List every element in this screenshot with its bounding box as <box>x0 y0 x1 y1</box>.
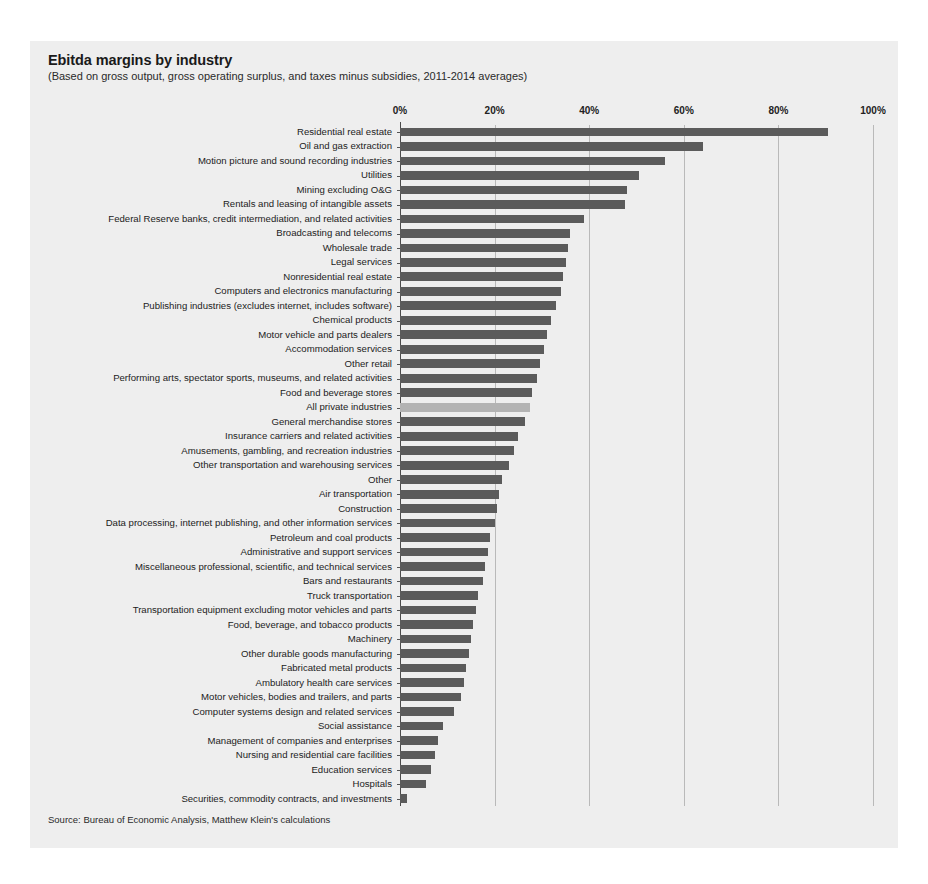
bar-row: Oil and gas extraction <box>30 139 873 153</box>
bar <box>400 200 625 209</box>
bar <box>400 548 488 557</box>
category-label: Insurance carriers and related activitie… <box>30 429 392 443</box>
bar <box>400 388 532 397</box>
bar-row: Other retail <box>30 357 873 371</box>
category-label: Transportation equipment excluding motor… <box>30 603 392 617</box>
bar <box>400 157 665 166</box>
category-label: Accommodation services <box>30 342 392 356</box>
bar-row: General merchandise stores <box>30 415 873 429</box>
bar <box>400 446 514 455</box>
bar-row: Administrative and support services <box>30 545 873 559</box>
category-label: Ambulatory health care services <box>30 676 392 690</box>
category-label: Administrative and support services <box>30 545 392 559</box>
bar <box>400 215 584 224</box>
bar <box>400 606 476 615</box>
bar-row: Social assistance <box>30 719 873 733</box>
bar <box>400 272 563 281</box>
bar-row: Hospitals <box>30 777 873 791</box>
category-label: Mining excluding O&G <box>30 183 392 197</box>
bar-row: Food, beverage, and tobacco products <box>30 618 873 632</box>
bar-row: Insurance carriers and related activitie… <box>30 429 873 443</box>
bar <box>400 562 485 571</box>
bar-row: Miscellaneous professional, scientific, … <box>30 560 873 574</box>
bar-row: Legal services <box>30 255 873 269</box>
bar <box>400 128 828 137</box>
category-label: Food and beverage stores <box>30 386 392 400</box>
bar <box>400 287 561 296</box>
bar-row: Other durable goods manufacturing <box>30 647 873 661</box>
bar <box>400 620 473 629</box>
bar <box>400 794 407 803</box>
bar <box>400 693 461 702</box>
bar <box>400 519 495 528</box>
category-label: Legal services <box>30 255 392 269</box>
x-tick-label: 0% <box>393 105 407 116</box>
bar <box>400 475 502 484</box>
bar-row: Food and beverage stores <box>30 386 873 400</box>
bar-row: Computers and electronics manufacturing <box>30 284 873 298</box>
bar-row: Machinery <box>30 632 873 646</box>
gridline-100% <box>873 125 874 806</box>
bar <box>400 490 499 499</box>
x-tick-label: 40% <box>579 105 599 116</box>
category-label: Social assistance <box>30 719 392 733</box>
category-label: Nursing and residential care facilities <box>30 748 392 762</box>
category-label: Motor vehicles, bodies and trailers, and… <box>30 690 392 704</box>
x-tick-label: 20% <box>485 105 505 116</box>
bar <box>400 707 454 716</box>
category-label: Federal Reserve banks, credit intermedia… <box>30 212 392 226</box>
bar <box>400 780 426 789</box>
category-label: Miscellaneous professional, scientific, … <box>30 560 392 574</box>
bar-row: Petroleum and coal products <box>30 531 873 545</box>
bar <box>400 330 547 339</box>
bar <box>400 533 490 542</box>
bar <box>400 403 530 412</box>
category-label: Bars and restaurants <box>30 574 392 588</box>
bar <box>400 736 438 745</box>
category-label: Hospitals <box>30 777 392 791</box>
bar <box>400 374 537 383</box>
bar <box>400 635 471 644</box>
category-label: Chemical products <box>30 313 392 327</box>
page-title: Ebitda margins by industry <box>48 52 232 68</box>
category-label: Rentals and leasing of intangible assets <box>30 197 392 211</box>
bar <box>400 417 525 426</box>
bar-row: Motor vehicle and parts dealers <box>30 328 873 342</box>
bar <box>400 316 551 325</box>
category-label: Utilities <box>30 168 392 182</box>
bar <box>400 171 639 180</box>
bar <box>400 301 556 310</box>
bar <box>400 229 570 238</box>
bar <box>400 664 466 673</box>
category-label: Other durable goods manufacturing <box>30 647 392 661</box>
bar <box>400 461 509 470</box>
bar-row: Other <box>30 473 873 487</box>
chart-page: Ebitda margins by industry (Based on gro… <box>0 0 928 884</box>
category-label: Other retail <box>30 357 392 371</box>
bar <box>400 142 703 151</box>
x-tick-label: 100% <box>860 105 886 116</box>
bar-row: Securities, commodity contracts, and inv… <box>30 792 873 806</box>
bar-row: Rentals and leasing of intangible assets <box>30 197 873 211</box>
bar-row: Broadcasting and telecoms <box>30 226 873 240</box>
category-label: Other <box>30 473 392 487</box>
bar-row: Utilities <box>30 168 873 182</box>
source-note: Source: Bureau of Economic Analysis, Mat… <box>48 814 330 825</box>
category-label: Computers and electronics manufacturing <box>30 284 392 298</box>
category-label: Amusements, gambling, and recreation ind… <box>30 444 392 458</box>
bar-row: Ambulatory health care services <box>30 676 873 690</box>
bar-row: Fabricated metal products <box>30 661 873 675</box>
bar <box>400 591 478 600</box>
category-label: Performing arts, spectator sports, museu… <box>30 371 392 385</box>
bar <box>400 765 431 774</box>
bar-row: Publishing industries (excludes internet… <box>30 299 873 313</box>
bar-row: Nonresidential real estate <box>30 270 873 284</box>
bar <box>400 751 435 760</box>
category-label: Truck transportation <box>30 589 392 603</box>
bar-row: Construction <box>30 502 873 516</box>
category-label: Publishing industries (excludes internet… <box>30 299 392 313</box>
bar-row: Data processing, internet publishing, an… <box>30 516 873 530</box>
bar-row: Education services <box>30 763 873 777</box>
bar-row: Nursing and residential care facilities <box>30 748 873 762</box>
bar-row: Accommodation services <box>30 342 873 356</box>
